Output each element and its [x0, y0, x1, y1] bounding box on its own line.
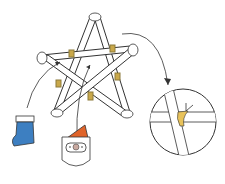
stocking-ornament [12, 116, 34, 146]
detail-magnifier [148, 88, 220, 160]
star-craft-diagram [0, 0, 225, 184]
santa-ornament [62, 125, 90, 166]
